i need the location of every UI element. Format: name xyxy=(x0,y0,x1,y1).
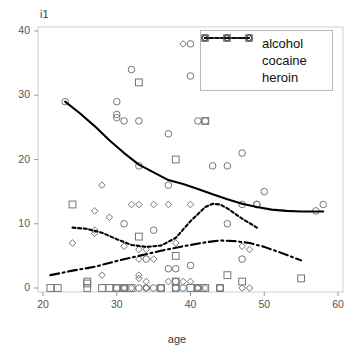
data-point xyxy=(84,285,91,292)
data-point xyxy=(172,240,179,247)
data-point xyxy=(150,256,157,263)
data-point xyxy=(99,182,106,189)
data-point xyxy=(165,278,172,285)
data-point xyxy=(91,208,98,215)
data-point xyxy=(158,285,165,292)
data-point xyxy=(128,201,135,208)
data-point xyxy=(246,246,253,253)
data-point xyxy=(150,227,157,234)
data-point xyxy=(135,233,142,240)
data-point xyxy=(172,156,179,163)
data-point xyxy=(195,285,202,292)
data-point xyxy=(165,131,172,138)
data-point xyxy=(165,182,172,189)
data-point xyxy=(172,285,179,292)
data-point xyxy=(239,150,246,157)
legend-swatch-heroin xyxy=(205,71,257,85)
data-point xyxy=(136,201,143,208)
data-point xyxy=(209,163,216,170)
data-point xyxy=(202,285,209,292)
data-point xyxy=(224,272,231,279)
data-point xyxy=(135,79,142,86)
data-point xyxy=(121,118,128,125)
data-point xyxy=(136,118,143,125)
chart-legend: alcoholcocaineheroin xyxy=(200,30,333,91)
data-point xyxy=(99,285,106,292)
data-point xyxy=(47,285,54,292)
legend-item-heroin[interactable]: heroin xyxy=(205,69,327,86)
data-point xyxy=(172,278,179,285)
data-point xyxy=(224,220,231,227)
data-point xyxy=(187,278,194,285)
series-heroin xyxy=(47,79,305,291)
legend-label: alcohol xyxy=(257,36,303,51)
data-point xyxy=(172,265,179,272)
data-point xyxy=(187,73,194,80)
data-point xyxy=(239,285,246,292)
data-point xyxy=(99,272,106,279)
data-point xyxy=(187,201,194,208)
scatter-chart: i1 age 0102030402030405060 alcoholcocain… xyxy=(0,0,354,357)
data-point xyxy=(224,163,231,170)
data-point xyxy=(113,285,120,292)
data-point xyxy=(128,66,135,73)
data-point xyxy=(150,285,157,292)
data-point xyxy=(165,201,172,208)
data-point xyxy=(195,118,202,125)
data-point xyxy=(84,278,91,285)
data-point xyxy=(136,246,143,253)
data-point xyxy=(84,280,91,287)
trend-line-alcohol xyxy=(65,102,323,212)
data-point xyxy=(180,278,187,285)
data-point xyxy=(239,278,246,285)
data-point xyxy=(261,188,268,195)
data-point xyxy=(320,201,327,208)
data-point xyxy=(69,201,76,208)
data-point xyxy=(239,256,246,263)
data-point xyxy=(180,41,187,48)
data-point xyxy=(298,275,305,282)
data-point xyxy=(128,285,135,292)
data-point xyxy=(239,243,246,250)
data-point xyxy=(246,285,253,292)
data-point xyxy=(187,285,194,292)
data-point xyxy=(180,285,187,292)
legend-label: cocaine xyxy=(257,53,307,68)
data-point xyxy=(136,285,143,292)
data-point xyxy=(106,285,113,292)
data-point xyxy=(202,285,209,292)
legend-item-cocaine[interactable]: cocaine xyxy=(205,52,327,69)
data-point xyxy=(150,201,157,208)
data-point xyxy=(143,285,150,292)
legend-swatch-cocaine xyxy=(205,54,257,68)
data-point xyxy=(202,118,209,125)
data-point xyxy=(128,285,135,292)
data-point xyxy=(121,285,128,292)
data-point xyxy=(143,256,150,263)
data-point xyxy=(187,41,194,48)
data-point xyxy=(165,265,172,272)
data-point xyxy=(143,278,150,285)
data-point xyxy=(106,214,113,221)
data-point xyxy=(172,252,179,259)
data-point xyxy=(113,98,120,105)
data-point xyxy=(54,285,61,292)
data-point xyxy=(187,262,194,269)
legend-label: heroin xyxy=(257,70,298,85)
data-point xyxy=(217,285,224,292)
data-point xyxy=(121,220,128,227)
data-point xyxy=(69,240,76,247)
